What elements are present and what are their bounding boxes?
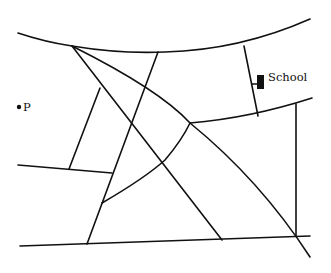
middle-curved-road — [190, 98, 312, 123]
short-connector-left — [69, 88, 100, 169]
school-marker[interactable]: School — [252, 70, 308, 89]
diagonal-road-to-bottom — [72, 46, 222, 240]
street-map: School P — [0, 0, 331, 273]
school-access-road — [244, 46, 258, 116]
point-p-label: P — [23, 100, 31, 114]
school-building-icon — [257, 75, 264, 89]
school-label: School — [268, 70, 308, 84]
point-marker-icon — [17, 105, 21, 109]
north-south-road-center — [87, 52, 158, 244]
curved-connector-lower — [102, 123, 190, 203]
top-curved-road — [18, 19, 310, 52]
point-p-marker[interactable]: P — [17, 100, 31, 114]
left-horizontal-road — [18, 165, 112, 173]
bottom-road — [20, 236, 310, 246]
